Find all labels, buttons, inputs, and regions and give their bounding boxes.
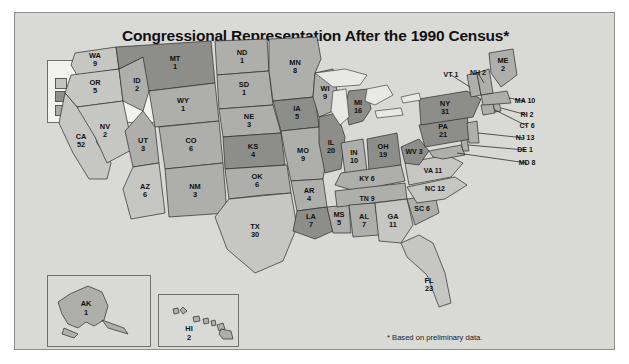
state-label-mi-value: 16 xyxy=(354,106,362,115)
state-label-vt: VT 1 xyxy=(444,71,459,78)
state-label-mo-value: 9 xyxy=(301,154,305,163)
state-label-nc: NC 12 xyxy=(425,185,445,192)
state-label-ct: CT 6 xyxy=(519,122,534,129)
state-label-wv: WV 3 xyxy=(405,148,422,155)
state-label-nd-value: 1 xyxy=(240,56,244,65)
state-label-de: DE 1 xyxy=(517,146,533,153)
state-label-ma: MA 10 xyxy=(515,97,535,104)
state-label-al-value: 7 xyxy=(362,220,366,229)
state-label-co-value: 6 xyxy=(189,144,193,153)
leader-line-md xyxy=(457,153,527,163)
state-label-id-value: 2 xyxy=(135,84,139,93)
state-label-ca-value: 52 xyxy=(77,140,85,149)
state-label-ms-value: 5 xyxy=(337,218,341,227)
state-fl[interactable] xyxy=(401,235,451,307)
state-label-pa-value: 21 xyxy=(439,130,447,139)
state-label-ia-value: 5 xyxy=(295,112,299,121)
state-label-wy-value: 1 xyxy=(181,104,185,113)
state-label-va: VA 11 xyxy=(424,167,442,174)
state-label-fl-value: 23 xyxy=(425,284,433,293)
lake-ontario xyxy=(401,93,421,103)
us-map: WA9OR5CA52NV2ID2MT1WY1UT3AZ6CO6NM3ND1SD1… xyxy=(15,13,616,351)
state-label-ne-value: 3 xyxy=(247,120,251,129)
state-label-tx-value: 30 xyxy=(251,230,259,239)
state-label-oh-value: 19 xyxy=(379,150,387,159)
state-label-nj: NJ 13 xyxy=(516,134,535,141)
state-label-in-value: 10 xyxy=(350,156,358,165)
state-label-ga-value: 11 xyxy=(389,220,397,229)
state-label-la-value: 7 xyxy=(309,220,313,229)
state-label-tn: TN 9 xyxy=(359,195,374,202)
lake-erie xyxy=(375,108,403,118)
lake-huron xyxy=(365,85,393,105)
state-label-nh: NH 2 xyxy=(470,69,486,76)
state-label-ok-value: 6 xyxy=(255,180,259,189)
state-label-ri: RI 2 xyxy=(521,111,534,118)
footnote: * Based on preliminary data. xyxy=(387,333,482,342)
state-label-nm-value: 3 xyxy=(193,190,197,199)
state-label-wi-value: 9 xyxy=(323,92,327,101)
state-label-sc: SC 6 xyxy=(414,205,430,212)
state-label-az-value: 6 xyxy=(143,190,147,199)
state-nj[interactable] xyxy=(467,121,479,143)
state-label-ky: KY 6 xyxy=(359,175,375,182)
state-label-wa-value: 9 xyxy=(93,59,97,68)
state-label-ut-value: 3 xyxy=(141,144,145,153)
state-label-ny-value: 31 xyxy=(441,107,449,116)
state-label-mn-value: 8 xyxy=(293,66,297,75)
infographic-root: Congressional Representation After the 1… xyxy=(0,0,629,364)
state-label-il-value: 20 xyxy=(327,146,335,155)
state-label-sd-value: 1 xyxy=(242,88,246,97)
state-label-me-value: 2 xyxy=(501,64,505,73)
state-label-md: MD 8 xyxy=(519,159,536,166)
state-md[interactable] xyxy=(429,145,465,159)
state-label-mt-value: 1 xyxy=(173,62,177,71)
map-panel: Congressional Representation After the 1… xyxy=(14,12,615,350)
state-label-or-value: 5 xyxy=(93,86,97,95)
state-label-nv-value: 2 xyxy=(103,130,107,139)
